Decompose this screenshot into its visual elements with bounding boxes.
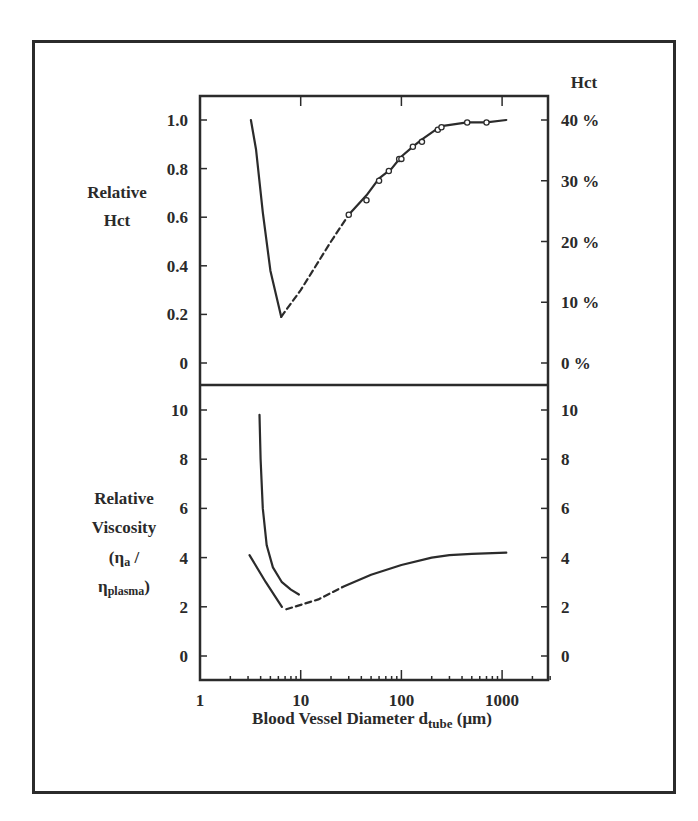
x-tick-label: 10 xyxy=(292,691,309,710)
x-tick-label: 100 xyxy=(389,691,415,710)
x-axis-title: Blood Vessel Diameter dtube (μm) xyxy=(252,709,492,731)
data-point xyxy=(386,168,391,173)
y2-tick-label: 30 % xyxy=(561,172,599,191)
y-tick-label: 0.6 xyxy=(167,208,188,227)
series-line xyxy=(343,553,507,587)
x-tick-label: 1000 xyxy=(485,691,519,710)
data-point xyxy=(439,125,444,130)
y-tick-label: 0.8 xyxy=(167,160,188,179)
data-point xyxy=(484,120,489,125)
y2-tick-label: 6 xyxy=(561,499,570,518)
series-line xyxy=(251,120,281,317)
y2-tick-label: 0 % xyxy=(561,354,591,373)
y-tick-label: 0 xyxy=(180,647,189,666)
top-ylabel-line1: Relative xyxy=(87,183,147,202)
y2-tick-label: 2 xyxy=(561,598,570,617)
data-point xyxy=(399,156,404,161)
y2-tick-label: 40 % xyxy=(561,111,599,130)
y-tick-label: 0.2 xyxy=(167,305,188,324)
top-y2label: Hct xyxy=(571,73,598,92)
chart: 110100100000.20.40.60.81.00 %10 %20 %30 … xyxy=(0,0,698,821)
y-tick-label: 10 xyxy=(171,401,188,420)
y-tick-label: 0 xyxy=(180,354,189,373)
series-line xyxy=(286,587,342,609)
series-line xyxy=(260,415,299,595)
data-point xyxy=(376,178,381,183)
tick-labels: 110100100000.20.40.60.81.00 %10 %20 %30 … xyxy=(167,111,600,710)
top-ylabel-line2: Hct xyxy=(104,211,131,230)
y-tick-label: 0.4 xyxy=(167,257,189,276)
x-tick-label: 1 xyxy=(196,691,205,710)
y2-tick-label: 10 xyxy=(561,401,578,420)
series-line xyxy=(250,555,282,607)
data-point xyxy=(465,120,470,125)
y2-tick-label: 10 % xyxy=(561,293,599,312)
y-tick-label: 4 xyxy=(180,549,189,568)
series-line xyxy=(349,120,507,215)
data-point xyxy=(419,139,424,144)
y-tick-label: 1.0 xyxy=(167,111,188,130)
bottom-ylabel-line1: Relative xyxy=(94,489,154,508)
bottom-ylabel-line3: (ηa / xyxy=(109,548,140,569)
y2-tick-label: 8 xyxy=(561,450,570,469)
y2-tick-label: 0 xyxy=(561,647,570,666)
y-tick-label: 8 xyxy=(180,450,189,469)
y2-tick-label: 20 % xyxy=(561,233,599,252)
y-tick-label: 6 xyxy=(180,499,189,518)
bottom-ylabel-line2: Viscosity xyxy=(92,518,157,537)
data-point xyxy=(346,212,351,217)
y-tick-label: 2 xyxy=(180,598,189,617)
bottom-ylabel-line4: ηplasma) xyxy=(98,577,150,598)
series-line xyxy=(281,215,349,317)
series xyxy=(250,120,507,609)
data-point xyxy=(364,198,369,203)
data-point xyxy=(410,144,415,149)
y2-tick-label: 4 xyxy=(561,549,570,568)
